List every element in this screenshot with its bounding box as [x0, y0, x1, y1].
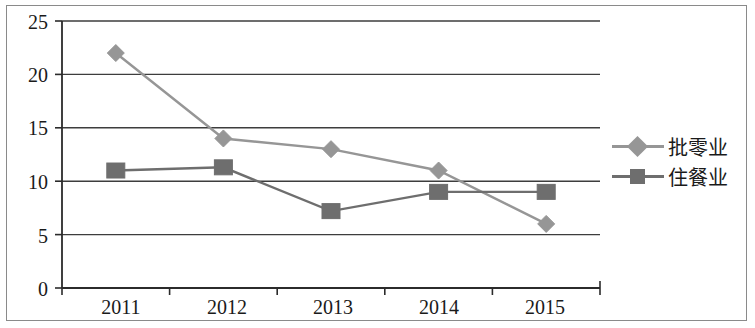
y-axis-ticks	[55, 21, 62, 288]
diamond-marker-icon	[612, 134, 664, 158]
legend-marker-series2	[630, 169, 645, 184]
legend-item-series2: 住餐业	[612, 161, 750, 191]
legend-label-series1: 批零业	[664, 132, 728, 161]
chart-page: 25 20 15 10 5 0 2011 2012 2013 2014 2015…	[0, 0, 755, 328]
legend-label-series2: 住餐业	[664, 162, 728, 191]
x-axis-ticks	[62, 288, 600, 295]
legend: 批零业 住餐业	[612, 131, 750, 191]
square-marker-icon	[612, 164, 664, 188]
legend-marker-series1	[627, 136, 648, 157]
legend-item-series1: 批零业	[612, 131, 750, 161]
series-lines	[107, 45, 555, 233]
